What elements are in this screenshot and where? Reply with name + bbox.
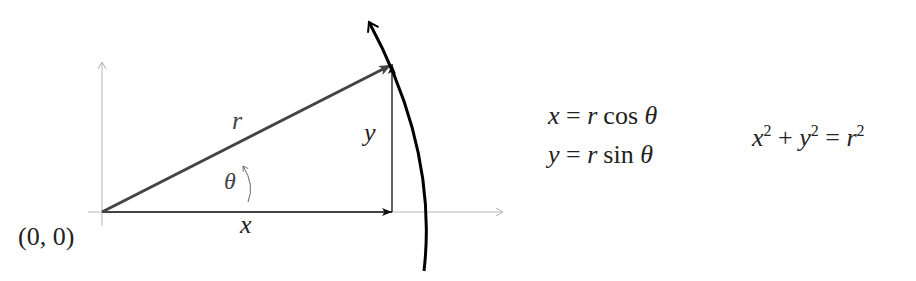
eq-p-x-exp: 2 — [764, 122, 772, 139]
radius-vector — [102, 65, 391, 212]
eq-x-r: r — [587, 101, 597, 130]
eq-p-r: r — [846, 123, 856, 152]
eq-p-y-exp: 2 — [811, 122, 819, 139]
eq-x-equals: = — [566, 101, 581, 130]
eq-y-lhs: y — [548, 140, 560, 169]
equation-x: x = rcos θ — [548, 101, 657, 131]
eq-p-equals: = — [825, 123, 840, 152]
eq-y-theta: θ — [640, 140, 653, 169]
eq-p-plus: + — [778, 123, 793, 152]
equation-pythagorean: x2 + y2 = r2 — [752, 122, 865, 153]
label-theta: θ — [224, 168, 236, 195]
eq-p-x: x — [752, 123, 764, 152]
eq-p-r-exp: 2 — [857, 122, 865, 139]
circle-arc — [369, 22, 426, 271]
eq-x-fn: cos — [603, 101, 638, 130]
eq-y-r: r — [587, 140, 597, 169]
label-r: r — [232, 106, 242, 136]
eq-x-theta: θ — [645, 101, 658, 130]
origin-label: (0, 0) — [18, 222, 74, 252]
equation-y: y = rsin θ — [548, 140, 653, 170]
eq-p-y: y — [799, 123, 811, 152]
theta-arc-arrow — [243, 166, 251, 202]
eq-y-fn: sin — [603, 140, 633, 169]
label-y: y — [364, 118, 376, 148]
eq-x-lhs: x — [548, 101, 560, 130]
eq-y-equals: = — [566, 140, 581, 169]
label-x: x — [240, 210, 252, 240]
